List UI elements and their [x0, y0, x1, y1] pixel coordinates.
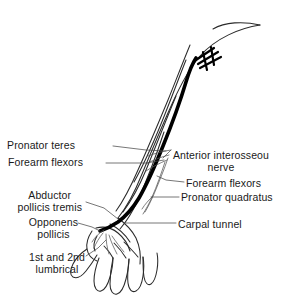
label-lumbricals: 1st and 2nd lumbrical	[29, 252, 85, 275]
brachial-plexus-roots	[196, 47, 221, 70]
plexus-root-3	[200, 57, 221, 68]
label-pronator-teres: Pronator teres	[7, 140, 75, 152]
label-opponens-pollicis-line2: pollicis	[29, 229, 78, 241]
leader-opponens-pollicis	[78, 223, 100, 231]
label-lumbricals-line2: lumbrical	[29, 264, 85, 276]
label-lumbricals-line1: 1st and 2nd	[29, 251, 85, 263]
label-abductor-pollicis-brevis-line1: Abductor	[28, 189, 71, 201]
label-opponens-pollicis: Opponens pollicis	[29, 217, 78, 240]
label-forearm-flexors-right: Forearm flexors	[186, 178, 261, 190]
leader-lumbricals	[86, 240, 106, 256]
label-pronator-quadratus: Pronator quadratus	[181, 192, 273, 204]
anatomy-figure: Pronator teres Forearm flexors Abductor …	[0, 0, 285, 297]
label-pronator-quadratus-text: Pronator quadratus	[181, 191, 273, 203]
branch-digital	[112, 236, 124, 252]
label-carpal-tunnel-text: Carpal tunnel	[178, 218, 242, 230]
label-abductor-pollicis-brevis-line2: pollicis tremis	[17, 202, 82, 214]
ring-finger	[128, 257, 144, 292]
label-forearm-flexors-left: Forearm flexors	[8, 157, 83, 169]
label-anterior-interosseous-line2: nerve	[173, 162, 269, 174]
label-abductor-pollicis-brevis: Abductor pollicis tremis	[17, 190, 82, 213]
label-forearm-flexors-right-text: Forearm flexors	[186, 177, 261, 189]
label-anterior-interosseous-nerve: Anterior interosseou nerve	[173, 150, 269, 173]
label-anterior-interosseous-line1: Anterior interosseou	[173, 149, 269, 161]
metacarpal-line-3	[124, 242, 138, 257]
little-finger	[143, 253, 158, 285]
arm-inner-contour	[116, 45, 190, 211]
metacarpal-line-2	[114, 243, 126, 258]
label-pronator-teres-text: Pronator teres	[7, 139, 75, 151]
leader-abductor-pollicis-brevis	[86, 202, 118, 219]
plexus-root-2	[198, 52, 218, 64]
label-forearm-flexors-left-text: Forearm flexors	[8, 156, 83, 168]
label-carpal-tunnel: Carpal tunnel	[178, 219, 242, 231]
thenar-eminence	[87, 231, 97, 261]
label-opponens-pollicis-line1: Opponens	[29, 216, 78, 228]
nerve-branches	[92, 150, 171, 254]
